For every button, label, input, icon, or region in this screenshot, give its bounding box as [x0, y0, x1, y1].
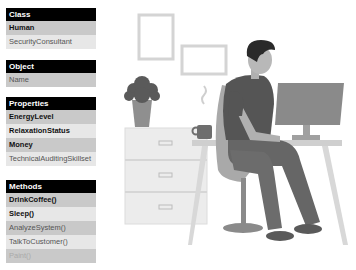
computer-monitor-icon: [275, 83, 344, 140]
properties-header: Properties: [6, 97, 96, 110]
class-header: Class: [6, 8, 96, 21]
property-row-money: Money: [6, 138, 96, 152]
object-row-name: Name: [6, 73, 96, 87]
method-row-talktocustomer: TalkToCustomer(): [6, 235, 96, 249]
method-row-sleep: Sleep(): [6, 207, 96, 221]
property-row-technicalauditingskillset: TechnicalAuditingSkillset: [6, 152, 96, 166]
class-panel: Class Human SecurityConsultant: [6, 8, 96, 49]
potted-plant-icon: [124, 76, 160, 127]
method-row-drinkcoffee: DrinkCoffee(): [6, 193, 96, 207]
object-header: Object: [6, 60, 96, 73]
property-row-energylevel: EnergyLevel: [6, 110, 96, 124]
method-row-paint: Paint(): [6, 249, 96, 263]
class-row-human: Human: [6, 21, 96, 35]
desk-worker-illustration: [110, 0, 356, 270]
class-row-securityconsultant: SecurityConsultant: [6, 35, 96, 49]
method-row-analyzesystem: AnalyzeSystem(): [6, 221, 96, 235]
properties-panel: Properties EnergyLevel RelaxationStatus …: [6, 97, 96, 166]
picture-frame-tall-icon: [139, 15, 173, 59]
methods-panel: Methods DrinkCoffee() Sleep() AnalyzeSys…: [6, 180, 96, 263]
methods-header: Methods: [6, 180, 96, 193]
object-panel: Object Name: [6, 60, 96, 87]
property-row-relaxationstatus: RelaxationStatus: [6, 124, 96, 138]
picture-frame-wide-icon: [182, 46, 226, 74]
